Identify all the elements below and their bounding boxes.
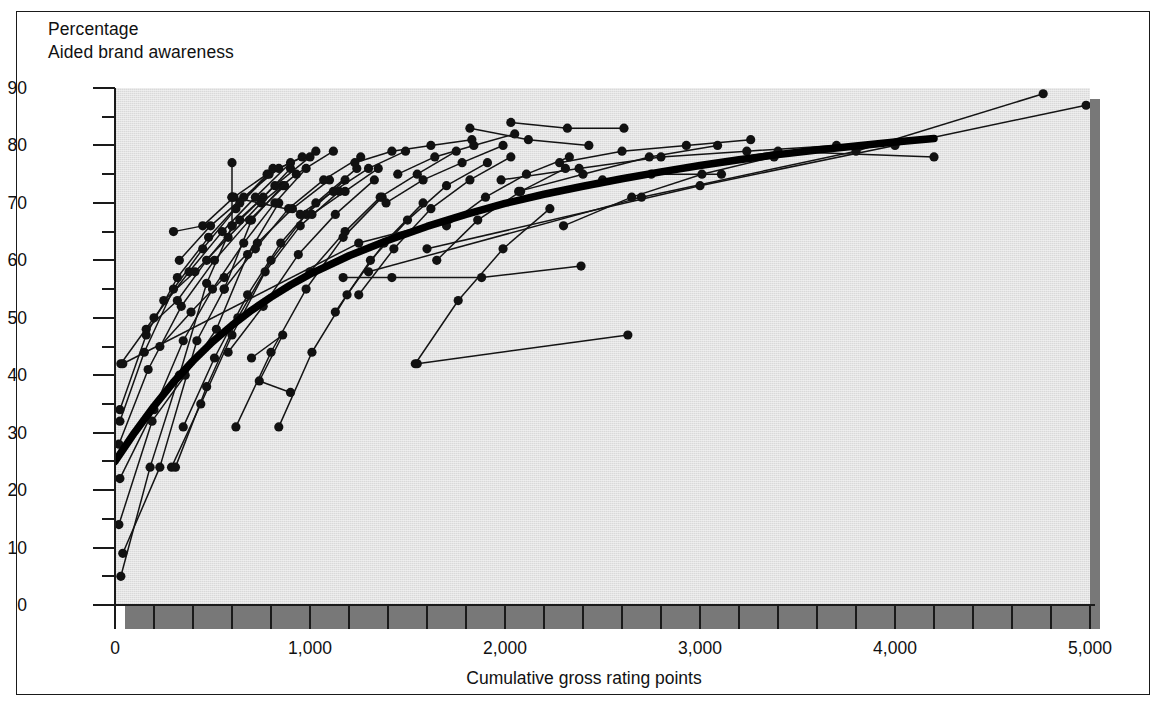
x-tick — [153, 605, 155, 629]
data-point-marker — [413, 359, 422, 368]
data-point-marker — [695, 181, 704, 190]
data-point-marker — [311, 147, 320, 156]
data-point-marker — [179, 336, 188, 345]
x-tick — [192, 605, 194, 629]
data-point-marker — [159, 296, 168, 305]
data-point-marker — [239, 239, 248, 248]
data-point-marker — [713, 141, 722, 150]
data-point-marker — [341, 187, 350, 196]
data-point-marker — [192, 336, 201, 345]
data-point-marker — [115, 405, 124, 414]
data-point-marker — [224, 348, 233, 357]
x-tick — [231, 605, 233, 629]
x-tick — [504, 605, 506, 629]
data-point-marker — [617, 147, 626, 156]
data-point-marker — [276, 239, 285, 248]
y-tick-label: 20 — [8, 480, 27, 501]
data-point-marker — [545, 204, 554, 213]
data-point-marker — [149, 313, 158, 322]
data-point-marker — [576, 261, 585, 270]
data-point-marker — [307, 348, 316, 357]
series-line — [172, 191, 340, 467]
data-point-marker — [454, 296, 463, 305]
data-point-marker — [294, 250, 303, 259]
series-line — [335, 163, 487, 312]
y-tick-label: 0 — [17, 595, 27, 616]
data-point-marker — [331, 210, 340, 219]
data-point-marker — [354, 290, 363, 299]
data-point-marker — [118, 549, 127, 558]
data-point-marker — [224, 233, 233, 242]
data-point-marker — [387, 273, 396, 282]
data-series — [115, 164, 310, 483]
data-point-marker — [220, 273, 229, 282]
data-point-marker — [458, 158, 467, 167]
data-point-marker — [146, 463, 155, 472]
data-point-marker — [366, 256, 375, 265]
data-point-marker — [506, 118, 515, 127]
data-point-marker — [426, 141, 435, 150]
y-tick-major — [93, 547, 115, 549]
data-point-marker — [296, 210, 305, 219]
x-tick — [894, 605, 896, 629]
y-tick-major — [93, 259, 115, 261]
y-tick-minor — [102, 460, 115, 462]
x-tick — [114, 605, 116, 629]
y-axis: 0102030405060708090 — [0, 0, 115, 620]
y-tick-minor — [102, 403, 115, 405]
data-point-marker — [169, 227, 178, 236]
data-point-marker — [255, 376, 264, 385]
y-tick-label: 50 — [8, 307, 27, 328]
data-point-marker — [278, 330, 287, 339]
data-series — [115, 181, 289, 449]
y-tick-major — [93, 489, 115, 491]
data-point-marker — [173, 273, 182, 282]
data-point-marker — [227, 193, 236, 202]
data-point-marker — [341, 227, 350, 236]
data-point-marker — [497, 175, 506, 184]
data-point-marker — [387, 147, 396, 156]
data-point-marker — [220, 284, 229, 293]
x-tick — [582, 605, 584, 629]
data-point-marker — [329, 147, 338, 156]
data-point-marker — [274, 164, 283, 173]
chart-data-layer — [115, 88, 1090, 605]
data-point-marker — [319, 175, 328, 184]
y-tick-major — [93, 87, 115, 89]
x-tick — [816, 605, 818, 629]
series-line — [232, 168, 378, 214]
data-point-marker — [142, 325, 151, 334]
y-tick-label: 40 — [8, 365, 27, 386]
series-line — [417, 335, 628, 364]
data-point-marker — [389, 244, 398, 253]
data-point-marker — [155, 463, 164, 472]
y-tick-major — [93, 317, 115, 319]
data-point-marker — [514, 187, 523, 196]
x-tick-label: 3,000 — [678, 638, 722, 659]
y-tick-label: 30 — [8, 422, 27, 443]
data-point-marker — [247, 353, 256, 362]
x-tick-label: 5,000 — [1068, 638, 1112, 659]
x-tick — [699, 605, 701, 629]
data-point-marker — [465, 175, 474, 184]
data-point-marker — [717, 170, 726, 179]
data-point-marker — [1082, 101, 1091, 110]
data-point-marker — [144, 365, 153, 374]
data-point-marker — [274, 422, 283, 431]
data-point-marker — [179, 422, 188, 431]
data-point-marker — [350, 158, 359, 167]
series-layer — [115, 89, 1090, 581]
data-point-marker — [284, 204, 293, 213]
data-point-marker — [354, 239, 363, 248]
series-line — [120, 168, 273, 409]
y-tick-major — [93, 144, 115, 146]
x-tick — [933, 605, 935, 629]
y-tick-major — [93, 432, 115, 434]
x-tick — [660, 605, 662, 629]
data-point-marker — [465, 124, 474, 133]
plot-shell — [115, 88, 1090, 605]
data-point-marker — [645, 152, 654, 161]
data-point-marker — [563, 124, 572, 133]
data-point-marker — [339, 273, 348, 282]
data-point-marker — [190, 267, 199, 276]
